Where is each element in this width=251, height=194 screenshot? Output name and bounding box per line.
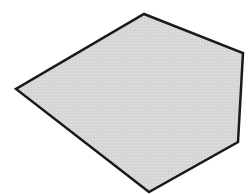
pentagon-figure — [0, 0, 251, 194]
diagram-canvas — [0, 0, 251, 194]
pentagon-shape — [16, 14, 243, 192]
